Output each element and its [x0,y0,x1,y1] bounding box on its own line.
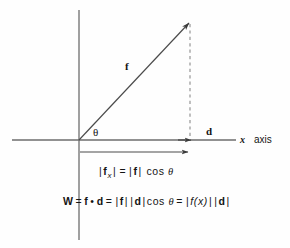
formula-d: d [134,195,141,207]
formula-d: d [97,195,104,207]
formula-w: W [63,195,74,207]
formula-equals: = [104,195,115,207]
x-axis-word-label: axis [254,135,272,145]
formula-cos: cos [146,165,164,177]
formula-d: d [219,195,226,207]
formula-f: f [133,165,137,177]
formula-equals: = [74,195,85,207]
formula-fx: f(x) [190,195,208,207]
force-vector-arrow [79,23,189,140]
force-vector-label: f [125,61,129,72]
formula-theta: θ [168,166,174,177]
diagram-canvas [0,0,290,248]
projection-formula: |fx|=|f| cos θ [98,166,174,180]
displacement-vector-label: d [206,126,212,137]
formula-cos: cos [147,195,165,207]
vector-projection-diagram: f θ d x axis |fx|=|f| cos θ W=f•d=|f||d|… [0,0,290,248]
formula-bar: | [138,165,143,177]
angle-theta-label: θ [93,127,98,138]
formula-equals: = [117,165,128,177]
work-formula: W=f•d=|f||d|cos θ=|f(x)||d| [63,196,231,208]
formula-equals: = [174,195,185,207]
formula-bar: | [226,195,231,207]
x-axis-variable-label: x [240,135,245,145]
formula-dot-operator: • [88,195,96,207]
